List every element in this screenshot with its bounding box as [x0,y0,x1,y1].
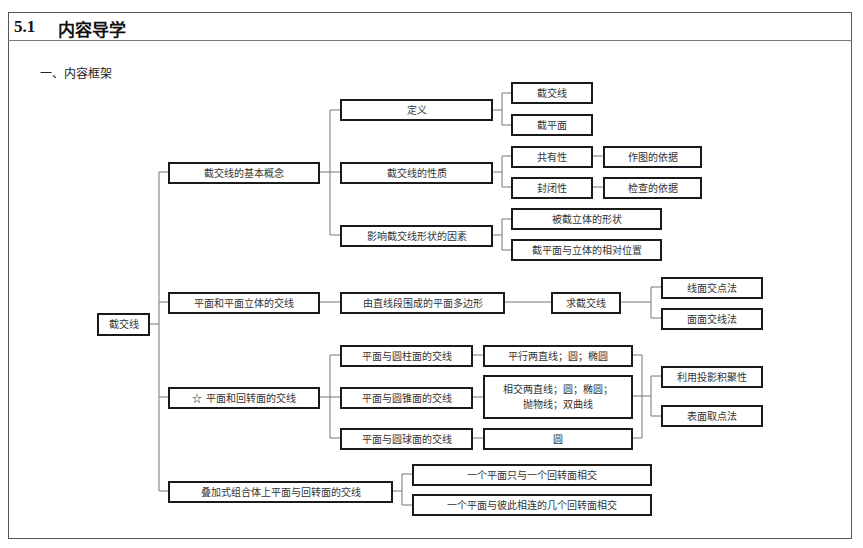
node-cone-case[interactable]: 平面与圆锥面的交线 [340,387,473,409]
node-multiple-revolutions[interactable]: 一个平面与彼此相连的几个回转面相交 [412,494,652,516]
node-basic-concept[interactable]: 截交线的基本概念 [168,162,320,184]
node-commonality[interactable]: 共有性 [511,146,593,168]
node-closure[interactable]: 封闭性 [511,177,593,199]
node-plane-plane-method[interactable]: 面面交线法 [661,308,763,330]
node-single-revolution[interactable]: 一个平面只与一个回转面相交 [412,464,652,486]
node-compound-body[interactable]: 叠加式组合体上平面与回转面的交线 [168,481,393,503]
node-definition[interactable]: 定义 [340,99,493,121]
node-properties[interactable]: 截交线的性质 [340,162,493,184]
node-surface-point-method[interactable]: 表面取点法 [661,405,763,427]
node-sphere-case[interactable]: 平面与圆球面的交线 [340,428,473,450]
node-projection-method[interactable]: 利用投影积聚性 [661,366,763,388]
node-drawing-basis[interactable]: 作图的依据 [603,146,702,168]
node-relative-position[interactable]: 截平面与立体的相对位置 [511,239,662,261]
root-node[interactable]: 截交线 [97,313,150,336]
node-factors[interactable]: 影响截交线形状的因素 [340,225,493,247]
node-line-plane-method[interactable]: 线面交点法 [661,277,763,299]
node-planar-polygon[interactable]: 由直线段围成的平面多边形 [340,292,505,314]
node-cone-result[interactable]: 相交两直线；圆；椭圆； 抛物线；双曲线 [483,375,633,419]
node-find-intersection[interactable]: 求截交线 [551,292,621,314]
node-sphere-result[interactable]: 圆 [483,428,633,450]
node-revolution-intersection[interactable]: ☆ 平面和回转面的交线 [168,387,320,409]
node-solid-shape[interactable]: 被截立体的形状 [511,208,662,230]
node-checking-basis[interactable]: 检查的依据 [603,177,702,199]
node-polyhedron-intersection[interactable]: 平面和平面立体的交线 [168,292,320,314]
node-cylinder-case[interactable]: 平面与圆柱面的交线 [340,345,473,367]
node-section-plane[interactable]: 截平面 [511,114,593,136]
node-section-line[interactable]: 截交线 [511,82,593,104]
node-cylinder-result[interactable]: 平行两直线；圆；椭圆 [483,345,633,367]
